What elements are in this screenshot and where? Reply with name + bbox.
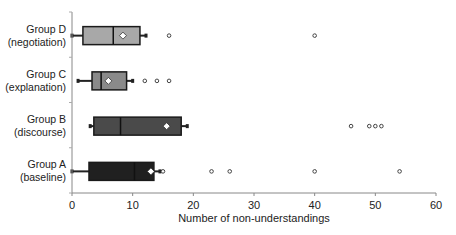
- boxplot-chart: Group D(negotiation)Group C(explanation)…: [0, 0, 456, 235]
- plot-area: [71, 27, 402, 181]
- whisker-cap-low: [89, 124, 92, 128]
- x-tick-label: 30: [248, 199, 260, 211]
- y-category-label: Group C: [26, 68, 66, 80]
- y-category-label: Group D: [26, 23, 66, 35]
- y-category-sublabel: (explanation): [5, 81, 66, 93]
- y-category-sublabel: (discourse): [14, 126, 66, 138]
- whisker-cap-low: [77, 79, 80, 83]
- x-tick-label: 0: [69, 199, 75, 211]
- box-group-group-a: [71, 162, 402, 180]
- outlier-point: [155, 79, 159, 83]
- outlier-point: [367, 124, 371, 128]
- box-group-group-d: [71, 27, 317, 45]
- outlier-point: [161, 170, 165, 174]
- whisker-cap-high: [131, 79, 134, 83]
- outlier-point: [313, 170, 317, 174]
- outlier-point: [143, 79, 147, 83]
- outlier-point: [167, 34, 171, 38]
- x-tick-label: 60: [430, 199, 442, 211]
- y-category-label: Group B: [27, 113, 66, 125]
- x-axis-title: Number of non-understandings: [178, 212, 330, 224]
- iqr-box: [89, 162, 154, 180]
- outlier-point: [167, 79, 171, 83]
- whisker-cap-high: [186, 124, 189, 128]
- y-category-label: Group A: [27, 158, 66, 170]
- x-tick-label: 40: [309, 199, 321, 211]
- outlier-point: [228, 170, 232, 174]
- box-group-group-b: [89, 117, 384, 135]
- iqr-box: [83, 27, 140, 45]
- outlier-point: [210, 170, 214, 174]
- y-category-sublabel: (negotiation): [8, 36, 66, 48]
- outlier-point: [313, 34, 317, 38]
- y-axis: Group D(negotiation)Group C(explanation)…: [5, 12, 72, 193]
- outlier-point: [349, 124, 353, 128]
- x-tick-label: 50: [369, 199, 381, 211]
- x-tick-label: 10: [127, 199, 139, 211]
- y-category-sublabel: (baseline): [20, 171, 66, 183]
- outlier-point: [374, 124, 378, 128]
- box-group-group-c: [77, 72, 171, 90]
- x-tick-label: 20: [187, 199, 199, 211]
- x-axis: 0102030405060: [69, 193, 442, 211]
- outlier-point: [380, 124, 384, 128]
- whisker-cap-high: [145, 34, 148, 38]
- outlier-point: [398, 170, 402, 174]
